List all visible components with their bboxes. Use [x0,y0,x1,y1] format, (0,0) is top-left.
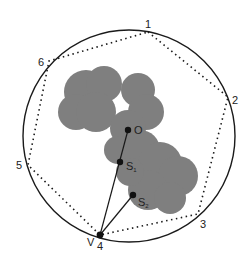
label-vertex-5: 5 [16,159,22,171]
label-vertex-6: 6 [38,56,44,68]
point-s2 [130,192,136,198]
label-vertex-2: 2 [232,94,238,106]
point-o [125,127,131,133]
molecule-blob [58,66,198,214]
point-v [97,232,104,239]
diagram-canvas: 1 2 3 4 5 6 V O S1 S2 [0,0,251,264]
label-vertex-3: 3 [200,218,206,230]
label-v: V [87,236,95,248]
label-vertex-4: 4 [97,240,103,252]
point-s1 [117,159,123,165]
label-o: O [134,124,143,136]
label-vertex-1: 1 [145,18,151,30]
